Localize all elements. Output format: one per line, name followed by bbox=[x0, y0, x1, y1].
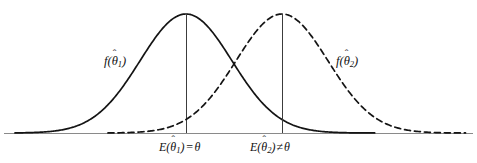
curve1-close-paren: ) bbox=[122, 54, 126, 68]
curve-label-f-theta-hat-2: f(ˆθ2) bbox=[336, 55, 358, 69]
plot-layer bbox=[4, 14, 473, 134]
mean1-parameter: θ bbox=[195, 140, 201, 154]
axis-label-expectation-theta-hat-2: E(ˆθ2)≠θ bbox=[250, 141, 290, 155]
mean2-hat-mark: ˆ bbox=[263, 135, 266, 145]
mean2-close-paren: ) bbox=[272, 140, 276, 154]
density-curve-1 bbox=[15, 14, 375, 133]
axis-label-expectation-theta-hat-1: E(ˆθ1)=θ bbox=[159, 141, 201, 155]
mean2-operator: ≠ bbox=[276, 140, 285, 154]
density-plot-svg bbox=[0, 0, 477, 163]
mean2-parameter: θ bbox=[284, 140, 290, 154]
mean1-theta-hat: ˆθ bbox=[170, 141, 176, 153]
curve2-theta-hat: ˆθ bbox=[344, 55, 350, 68]
curve2-hat-mark: ˆ bbox=[345, 48, 349, 59]
curve1-theta-hat: ˆθ bbox=[112, 55, 118, 68]
mean1-close-paren: ) bbox=[181, 140, 185, 154]
curve1-hat-mark: ˆ bbox=[113, 48, 117, 59]
mean2-theta-hat: ˆθ bbox=[261, 141, 267, 153]
curve-label-f-theta-hat-1: f(ˆθ1) bbox=[104, 55, 126, 69]
density-curve-2 bbox=[108, 14, 466, 133]
curve2-close-paren: ) bbox=[354, 54, 358, 68]
mean1-hat-mark: ˆ bbox=[172, 135, 175, 145]
sampling-distribution-figure: f(ˆθ1) f(ˆθ2) E(ˆθ1)=θ E(ˆθ2)≠θ bbox=[0, 0, 477, 163]
mean1-operator: = bbox=[185, 140, 195, 154]
